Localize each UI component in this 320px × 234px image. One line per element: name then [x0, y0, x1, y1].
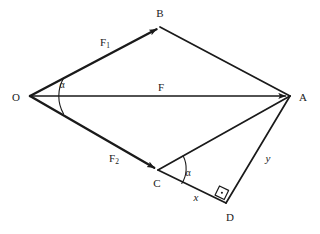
vertex-label-C: C: [153, 178, 160, 189]
segment-O-B: [30, 29, 157, 96]
edge-label-x: x: [194, 192, 199, 203]
geometry-diagram: [0, 0, 320, 234]
edge-label-F: F: [158, 82, 164, 93]
angle-label-alpha-at-C: α: [185, 168, 190, 178]
edge-label-y: y: [266, 153, 271, 164]
edge-label-F1: F1: [100, 37, 110, 48]
right-angle-marker: [215, 186, 229, 200]
vertex-label-B: B: [156, 8, 163, 19]
segment-O-C: [30, 96, 154, 168]
angle-label-alpha-at-O: α: [59, 80, 64, 90]
edge-label-F1-subscript: 1: [106, 41, 110, 50]
segment-B-A: [160, 27, 290, 96]
edge-label-F2-subscript: 2: [115, 157, 119, 166]
segment-D-A: [226, 96, 290, 203]
vertex-label-D: D: [226, 212, 234, 223]
vertex-label-O: O: [12, 92, 20, 103]
edge-label-F2: F2: [109, 153, 119, 164]
vertex-label-A: A: [299, 92, 307, 103]
segment-C-D: [158, 170, 226, 203]
figure-canvas: O B A C D F1 F F2 x y α α: [0, 0, 320, 234]
